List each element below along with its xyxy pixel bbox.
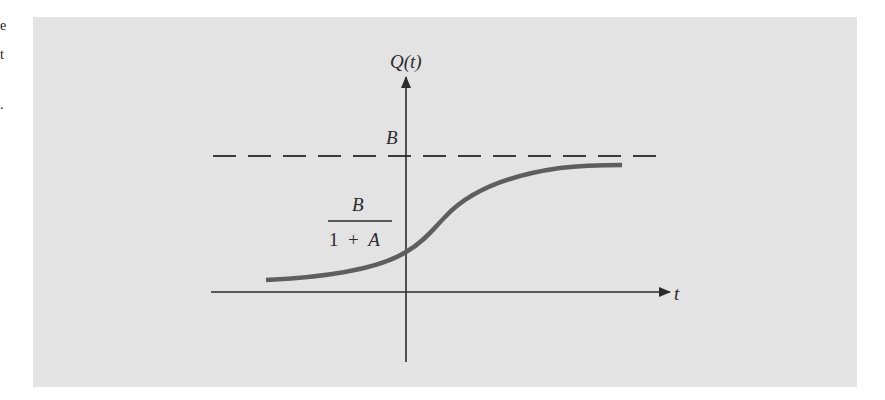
y-axis-label: Q(t) xyxy=(390,52,422,71)
x-axis-label: t xyxy=(674,284,679,303)
denominator-one: 1 xyxy=(329,229,339,250)
denominator-a: A xyxy=(368,229,380,250)
logistic-curve-figure xyxy=(0,0,885,400)
denominator-plus: + xyxy=(348,229,359,250)
intercept-numerator: B xyxy=(352,195,364,214)
asymptote-label: B xyxy=(386,128,398,147)
intercept-denominator: 1 + A xyxy=(329,230,380,249)
logistic-curve xyxy=(266,165,622,280)
